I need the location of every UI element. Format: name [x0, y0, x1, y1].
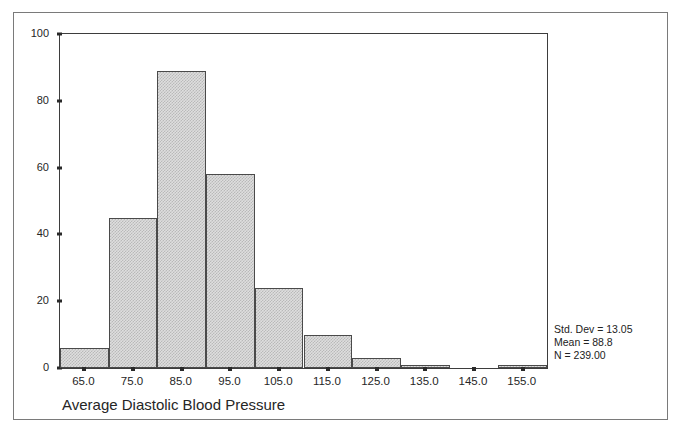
x-tick-mark [326, 367, 330, 371]
histogram-bar [304, 335, 353, 368]
x-tick-mark [82, 367, 86, 371]
x-tick-label: 75.0 [121, 375, 143, 387]
y-tick-label: 100 [31, 28, 49, 39]
x-tick-mark [423, 367, 427, 371]
plot-area [60, 34, 547, 368]
x-tick-mark [521, 367, 525, 371]
y-tick-mark [57, 99, 62, 102]
x-tick-mark [131, 367, 135, 371]
statistics-annotation: Std. Dev = 13.05 Mean = 88.8 N = 239.00 [554, 323, 633, 362]
x-axis-title: Average Diastolic Blood Pressure [62, 396, 285, 413]
x-tick-label: 115.0 [313, 375, 341, 387]
std-dev-text: Std. Dev = 13.05 [554, 323, 633, 336]
x-tick-label: 145.0 [459, 375, 488, 387]
x-tick-label: 155.0 [507, 375, 536, 387]
y-tick-mark [57, 233, 62, 236]
y-tick-mark [57, 33, 62, 36]
histogram-figure: 020406080100 Average Diastolic Blood Pre… [13, 12, 668, 420]
x-tick-label: 125.0 [361, 375, 390, 387]
y-tick-label: 0 [43, 362, 49, 373]
y-tick-label: 40 [37, 228, 49, 239]
n-text: N = 239.00 [554, 349, 633, 362]
x-tick-label: 85.0 [170, 375, 192, 387]
x-tick-label: 105.0 [264, 375, 293, 387]
y-tick-mark [57, 300, 62, 303]
x-tick-label: 65.0 [72, 375, 94, 387]
histogram-bar [255, 288, 304, 368]
x-tick-mark [180, 367, 184, 371]
histogram-bar [157, 71, 206, 368]
y-tick-label: 20 [37, 295, 49, 306]
y-tick-label: 60 [37, 161, 49, 172]
histogram-bar [109, 218, 158, 368]
x-tick-mark [228, 367, 232, 371]
x-tick-label: 135.0 [410, 375, 439, 387]
x-tick-label: 95.0 [218, 375, 240, 387]
mean-text: Mean = 88.8 [554, 336, 633, 349]
x-tick-mark [277, 367, 281, 371]
plot-frame [59, 33, 548, 369]
x-tick-mark [472, 367, 476, 371]
y-tick-label: 80 [37, 94, 49, 105]
y-tick-mark [57, 166, 62, 169]
histogram-bar [206, 174, 255, 368]
y-axis: 020406080100 [14, 13, 59, 419]
histogram-bar [60, 348, 109, 368]
x-tick-mark [375, 367, 379, 371]
